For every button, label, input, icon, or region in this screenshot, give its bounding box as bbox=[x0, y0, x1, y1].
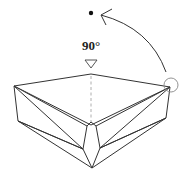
fold-marker-triangle-icon bbox=[85, 60, 97, 68]
target-dot bbox=[89, 11, 93, 15]
front-layer bbox=[14, 74, 170, 149]
angle-label: 90° bbox=[82, 38, 100, 53]
rotation-arrow-icon bbox=[101, 15, 166, 72]
corner-highlight-circle bbox=[164, 78, 178, 92]
origami-diagram: 90° bbox=[0, 0, 185, 180]
